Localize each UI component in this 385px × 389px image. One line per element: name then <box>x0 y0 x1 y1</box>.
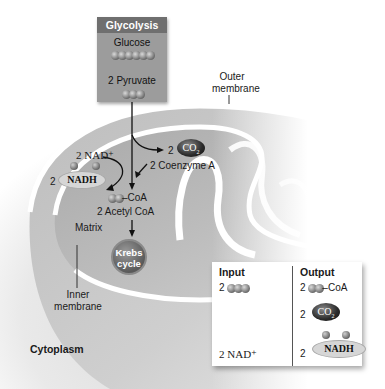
hydrogen-ball-icon <box>322 331 330 339</box>
input-pyruvate-coef: 2 <box>219 282 225 293</box>
acetyl-coa-molecule: –CoA <box>108 192 147 204</box>
output-nadh-coef: 2 <box>300 348 306 360</box>
hydrogen-ball-icon <box>70 162 78 170</box>
pyruvate-label: 2 Pyruvate <box>97 75 167 86</box>
hydrogen-ball-icon <box>92 162 100 170</box>
input-nad-coef: 2 <box>219 348 225 360</box>
inner-membrane-label: Inner membrane <box>52 289 104 313</box>
glucose-label: Glucose <box>97 37 167 48</box>
krebs-label-line2: cycle <box>113 258 145 269</box>
nad-input-label: 2 NAD⁺ <box>76 149 114 161</box>
outer-membrane-label: Outer membrane <box>212 71 252 95</box>
nad-text: NAD⁺ <box>84 149 114 161</box>
glucose-molecule <box>97 50 167 60</box>
input-output-table: Input Output 2 2 NAD⁺ 2 –CoA 2 CO2 2 NAD… <box>212 262 362 366</box>
input-pyruvate: 2 <box>219 282 248 294</box>
table-divider <box>292 266 293 366</box>
output-co2-coef: 2 <box>300 309 306 321</box>
krebs-label-line1: Krebs <box>113 247 145 258</box>
acetyl-coa-label: 2 Acetyl CoA <box>97 206 154 218</box>
output-acetyl-coa: 2 –CoA <box>300 282 347 294</box>
co2-text: CO <box>183 142 197 153</box>
input-header: Input <box>219 266 245 278</box>
krebs-cycle: Krebs cycle <box>111 239 147 275</box>
co2-subscript: 2 <box>196 149 199 155</box>
diagram: Glycolysis Glucose 2 Pyruvate Outer memb… <box>0 0 385 389</box>
matrix-label: Matrix <box>75 222 102 234</box>
nadh-coefficient: 2 <box>50 176 56 188</box>
coa-suffix: –CoA <box>122 192 147 203</box>
nadh-molecule: NADH <box>58 171 106 189</box>
glycolysis-header: Glycolysis <box>97 17 167 33</box>
output-acetyl-coef: 2 <box>300 282 306 293</box>
input-nad: 2 NAD⁺ <box>219 348 257 360</box>
input-nad-text: NAD⁺ <box>227 348 257 360</box>
output-nadh-molecule: NADH <box>312 340 366 358</box>
co2-coefficient: 2 <box>168 145 174 157</box>
output-co2-text: CO <box>318 306 332 317</box>
output-co2-subscript: 2 <box>331 313 334 319</box>
cytoplasm-label: Cytoplasm <box>30 343 84 355</box>
pyruvate-molecule <box>97 89 167 99</box>
output-co2-molecule: CO2 <box>312 303 340 321</box>
glycolysis-box: Glycolysis Glucose 2 Pyruvate <box>97 17 167 102</box>
output-coa-suffix: –CoA <box>322 282 347 293</box>
hydrogen-ball-icon <box>342 331 350 339</box>
nad-coefficient: 2 <box>76 149 82 161</box>
co2-molecule: CO2 <box>177 139 205 157</box>
output-header: Output <box>300 266 334 278</box>
coenzyme-a-label: 2 Coenzyme A <box>150 160 215 172</box>
